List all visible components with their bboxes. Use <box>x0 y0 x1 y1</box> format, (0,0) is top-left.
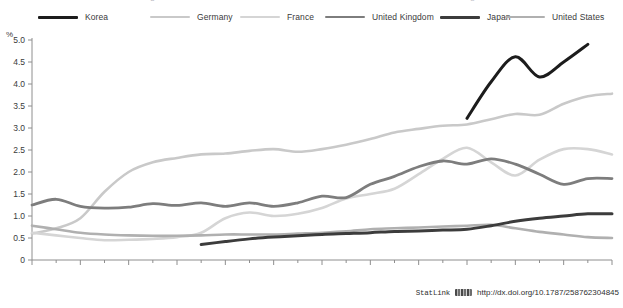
series-line-united-kingdom <box>32 159 612 208</box>
series-line-united-states <box>32 225 612 238</box>
chart-legend: KoreaGermanyFranceUnited KingdomJapanUni… <box>0 9 623 25</box>
legend-item-united-kingdom[interactable]: United Kingdom <box>325 12 434 22</box>
y-tick-label: 4.0 <box>13 79 25 89</box>
line-chart-svg: 00.51.01.52.02.53.03.54.04.55.0198119831… <box>0 36 623 268</box>
y-tick-label: 1.5 <box>13 189 25 199</box>
y-tick-label: 2.0 <box>13 167 25 177</box>
clipped-title-ghost-right: g <box>470 0 475 1</box>
y-tick-label: 5.0 <box>13 36 25 45</box>
series-line-germany <box>32 94 612 234</box>
legend-swatch-icon <box>150 16 190 19</box>
legend-item-label: United States <box>552 12 604 22</box>
legend-item-germany[interactable]: Germany <box>150 12 233 22</box>
y-tick-label: 0 <box>20 255 25 265</box>
legend-swatch-icon <box>325 16 365 19</box>
legend-swatch-icon <box>440 16 480 19</box>
legend-item-label: Germany <box>197 12 233 22</box>
statlink-label: StatLink <box>416 289 450 297</box>
legend-item-label: Korea <box>85 12 108 22</box>
legend-swatch-icon <box>240 16 280 19</box>
y-tick-label: 3.0 <box>13 123 25 133</box>
clipped-title-ghost-left: g <box>150 0 155 1</box>
legend-item-japan[interactable]: Japan <box>440 12 511 22</box>
barcode-icon <box>455 289 472 296</box>
legend-item-label: United Kingdom <box>372 12 434 22</box>
y-tick-label: 1.0 <box>13 211 25 221</box>
legend-swatch-icon <box>38 16 78 19</box>
y-tick-label: 3.5 <box>13 101 25 111</box>
clipped-title-strip: g g <box>0 0 623 6</box>
y-tick-label: 4.5 <box>13 57 25 67</box>
series-line-france <box>32 148 612 241</box>
legend-item-label: France <box>287 12 314 22</box>
chart-plot-area: 00.51.01.52.02.53.03.54.04.55.0198119831… <box>0 36 623 268</box>
chart-footer: StatLink http://dx.doi.org/10.1787/25876… <box>0 288 623 308</box>
y-tick-label: 0.5 <box>13 233 25 243</box>
series-line-korea <box>467 44 588 118</box>
statlink-url[interactable]: http://dx.doi.org/10.1787/258762304845 <box>477 288 619 297</box>
legend-swatch-icon <box>505 16 545 19</box>
legend-item-france[interactable]: France <box>240 12 314 22</box>
y-tick-label: 2.5 <box>13 145 25 155</box>
legend-item-united-states[interactable]: United States <box>505 12 604 22</box>
statlink-block[interactable]: StatLink http://dx.doi.org/10.1787/25876… <box>416 288 619 297</box>
legend-item-korea[interactable]: Korea <box>38 12 108 22</box>
